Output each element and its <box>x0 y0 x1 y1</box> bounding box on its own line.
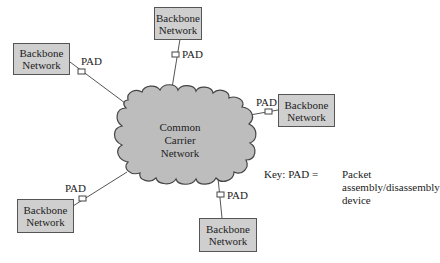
cloud-label-line2: Carrier <box>150 134 210 147</box>
box-label-line2: Network <box>209 235 248 247</box>
link-right <box>250 110 278 115</box>
backbone-network-right: Backbone Network <box>278 94 335 127</box>
pad-device-right <box>265 109 272 114</box>
box-label-line2: Network <box>287 111 326 123</box>
legend-key: Key: PAD = Packet assembly/disassembly d… <box>264 168 440 207</box>
pad-device-left <box>78 69 85 74</box>
pad-device-top <box>172 52 179 57</box>
pad-label-left: PAD <box>81 55 102 67</box>
key-prefix: Key: PAD = <box>264 168 342 181</box>
key-line2: assembly/disassembly <box>342 181 440 194</box>
box-label-line1: Backbone <box>24 204 68 216</box>
pad-device-bottom-left <box>79 196 86 201</box>
link-top <box>172 39 180 88</box>
backbone-network-left: Backbone Network <box>13 43 70 75</box>
backbone-network-top: Backbone Network <box>154 7 202 40</box>
box-label-line2: Network <box>26 216 65 228</box>
link-bottom <box>218 178 222 218</box>
cloud-label: Common Carrier Network <box>150 121 210 160</box>
backbone-network-bottom-left: Backbone Network <box>17 199 74 233</box>
pad-label-bottom-left: PAD <box>65 182 86 194</box>
key-line3: device <box>342 194 371 207</box>
pad-label-right: PAD <box>256 96 277 108</box>
pad-device-bottom <box>217 192 224 197</box>
box-label-line1: Backbone <box>285 99 329 111</box>
cloud-label-line1: Common <box>150 121 210 134</box>
box-label-line1: Backbone <box>156 12 200 24</box>
cloud-label-line3: Network <box>150 147 210 160</box>
box-label-line1: Backbone <box>206 223 250 235</box>
backbone-network-bottom: Backbone Network <box>199 218 257 252</box>
pad-label-top: PAD <box>182 48 203 60</box>
key-line1: Packet <box>342 168 371 181</box>
box-label-line1: Backbone <box>20 47 64 59</box>
pad-label-bottom: PAD <box>227 189 248 201</box>
link-left <box>70 62 125 103</box>
box-label-line2: Network <box>159 24 198 36</box>
box-label-line2: Network <box>22 59 61 71</box>
